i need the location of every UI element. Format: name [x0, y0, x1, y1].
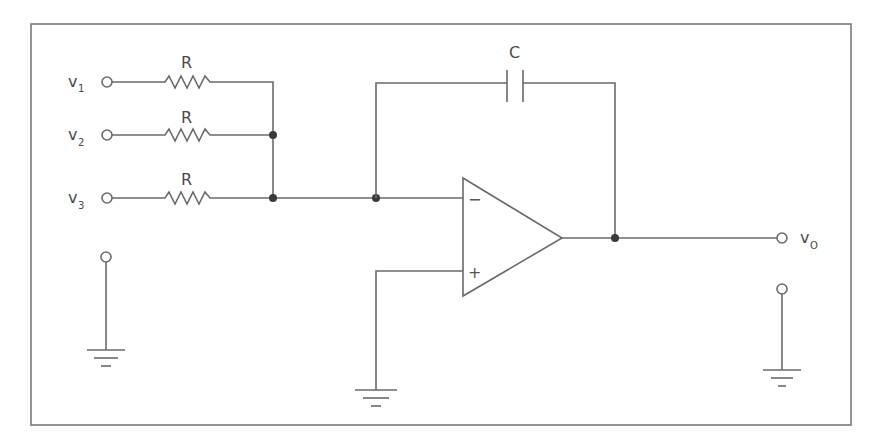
diagram-frame	[31, 24, 851, 425]
resistor-3-wire	[112, 192, 463, 204]
op-amp: − +	[355, 178, 562, 406]
input-subscript-1: 1	[78, 83, 84, 94]
output-label: v	[800, 228, 809, 247]
output-terminal	[777, 233, 787, 243]
resistor-2-wire	[112, 129, 273, 141]
input-label-v2: v	[68, 125, 77, 144]
output-node	[611, 234, 619, 242]
input-terminal-2	[102, 130, 112, 140]
junction-node	[269, 131, 277, 139]
input-branch-3: v 3 R	[68, 170, 463, 211]
input-terminal-1	[102, 77, 112, 87]
input-label-v1: v	[68, 72, 77, 91]
input-branch-2: v 2 R	[68, 108, 277, 148]
feedback-capacitor: C	[376, 43, 615, 238]
input-branch-1: v 1 R	[68, 53, 273, 198]
resistor-label-2: R	[181, 108, 192, 127]
ground-terminal	[101, 252, 111, 262]
input-subscript-3: 3	[78, 200, 84, 211]
input-terminal-3	[102, 193, 112, 203]
noninverting-input-sign: +	[468, 263, 481, 282]
output-branch: v O	[562, 228, 818, 386]
input-subscript-2: 2	[78, 137, 84, 148]
junction-node	[269, 194, 277, 202]
input-ground	[87, 252, 125, 366]
capacitor-label: C	[509, 43, 520, 62]
resistor-1-wire	[112, 76, 273, 198]
output-ground-terminal	[777, 284, 787, 294]
resistor-label-1: R	[181, 53, 192, 72]
circuit-diagram: v 1 R v 2 R v 3 R C	[0, 0, 872, 440]
resistor-label-3: R	[181, 170, 192, 189]
output-subscript: O	[810, 240, 818, 251]
input-label-v3: v	[68, 188, 77, 207]
inverting-input-sign: −	[468, 190, 481, 209]
